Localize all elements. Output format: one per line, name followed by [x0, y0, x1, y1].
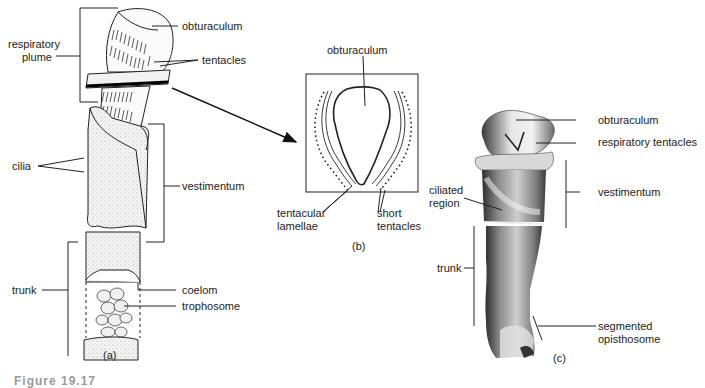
label-trunk-c: trunk [437, 262, 461, 274]
label-tentacular-lamellae-line1: tentacular [277, 207, 325, 219]
label-respiratory-plume-line1: respiratory [8, 38, 60, 50]
label-short-tentacles-line2: tentacles [377, 220, 421, 232]
label-vestimentum-a: vestimentum [182, 180, 244, 192]
label-tentacular-lamellae-line2: lamellae [277, 220, 318, 232]
label-obturaculum-a: obturaculum [182, 20, 243, 32]
label-respiratory-plume-line2: plume [22, 51, 52, 63]
label-ciliated-region-line1: ciliated [429, 184, 463, 196]
panel-a-tag: (a) [103, 349, 116, 361]
panel-c-photograph [464, 110, 596, 358]
label-obturaculum-b: obturaculum [327, 44, 388, 56]
label-segmented-opisthosome-line1: segmented [598, 320, 652, 332]
label-respiratory-tentacles: respiratory tentacles [598, 136, 697, 148]
label-obturaculum-c: obturaculum [598, 114, 659, 126]
figure-caption: Figure 19.17 [14, 374, 96, 388]
label-vestimentum-c: vestimentum [598, 186, 660, 198]
panel-b-tag: (b) [352, 240, 365, 252]
label-ciliated-region-line2: region [429, 197, 460, 209]
panel-a-illustration [38, 8, 296, 360]
label-short-tentacles-line1: short [377, 207, 401, 219]
label-coelom: coelom [182, 284, 217, 296]
label-cilia: cilia [12, 160, 31, 172]
panel-c-tag: (c) [553, 352, 566, 364]
label-trophosome: trophosome [182, 300, 240, 312]
panel-b-cross-section [306, 56, 418, 212]
label-tentacles-a: tentacles [202, 54, 246, 66]
label-segmented-opisthosome-line2: opisthosome [598, 333, 660, 345]
label-trunk-a: trunk [12, 284, 36, 296]
